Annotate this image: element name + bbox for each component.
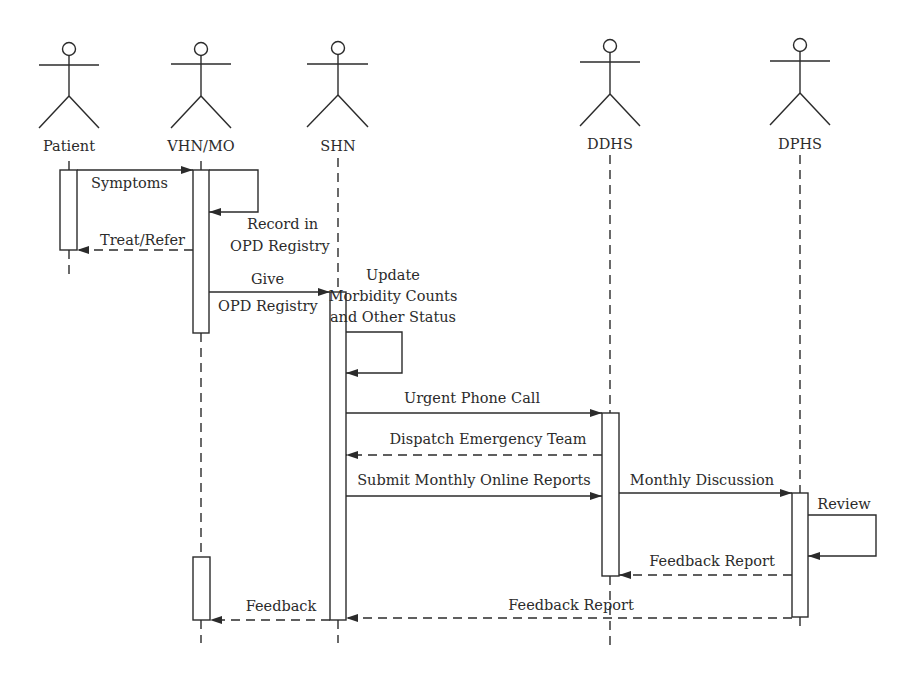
message-record-in-opd-registry: Record in OPD Registry [209,170,330,254]
stick-figure-icon [39,43,99,129]
svg-text:OPD Registry: OPD Registry [230,238,330,254]
message-monthly-discussion: Monthly Discussion [619,472,792,493]
svg-text:Morbidity Counts: Morbidity Counts [329,288,458,304]
svg-text:Treat/Refer: Treat/Refer [100,232,185,248]
sequence-diagram: Patient VHN/MO SHN DDHS [0,0,914,679]
svg-text:Symptoms: Symptoms [91,175,168,191]
activation-ddhs [602,413,619,576]
stick-figure-icon [171,43,231,129]
activation-patient [60,170,77,250]
actor-shn: SHN [307,42,368,155]
svg-text:and Other Status: and Other Status [330,309,456,325]
actor-label: DDHS [587,136,633,152]
svg-text:Record in: Record in [247,216,318,232]
svg-text:Urgent Phone Call: Urgent Phone Call [404,390,541,406]
message-give-opd-registry: Give OPD Registry [209,271,330,314]
message-update-morbidity: Update Morbidity Counts and Other Status [329,267,458,373]
svg-text:Review: Review [817,496,871,512]
activation-dphs [792,493,808,617]
message-feedback-report-to-ddhs: Feedback Report [619,553,792,575]
message-dispatch-emergency-team: Dispatch Emergency Team [346,431,602,455]
message-feedback-report-to-shn: Feedback Report [346,597,792,618]
svg-text:Feedback Report: Feedback Report [508,597,634,613]
activation-vhn-2 [193,557,210,620]
stick-figure-icon [770,39,830,126]
stick-figure-icon [307,42,368,128]
actor-patient: Patient [39,43,99,155]
actor-label: SHN [320,138,356,154]
message-symptoms: Symptoms [77,170,193,191]
message-urgent-phone-call: Urgent Phone Call [346,390,602,413]
svg-text:Monthly Discussion: Monthly Discussion [630,472,774,488]
activation-vhn-1 [193,170,209,333]
svg-text:Update: Update [366,267,420,283]
message-submit-monthly-reports: Submit Monthly Online Reports [346,472,602,496]
actor-dphs: DPHS [770,39,830,153]
svg-text:Dispatch Emergency Team: Dispatch Emergency Team [389,431,586,447]
actor-ddhs: DDHS [580,40,640,153]
svg-text:Feedback Report: Feedback Report [649,553,775,569]
message-feedback: Feedback [210,598,330,620]
actor-vhn-mo: VHN/MO [166,43,235,155]
stick-figure-icon [580,40,640,127]
svg-text:OPD Registry: OPD Registry [218,298,318,314]
actor-label: DPHS [778,136,822,152]
actor-label: VHN/MO [166,138,235,154]
message-treat-refer: Treat/Refer [77,232,193,250]
message-review: Review [808,496,876,556]
activation-shn [330,292,346,620]
actor-label: Patient [43,138,95,154]
svg-text:Feedback: Feedback [246,598,317,614]
svg-text:Submit Monthly Online Reports: Submit Monthly Online Reports [357,472,591,488]
svg-text:Give: Give [251,271,284,287]
